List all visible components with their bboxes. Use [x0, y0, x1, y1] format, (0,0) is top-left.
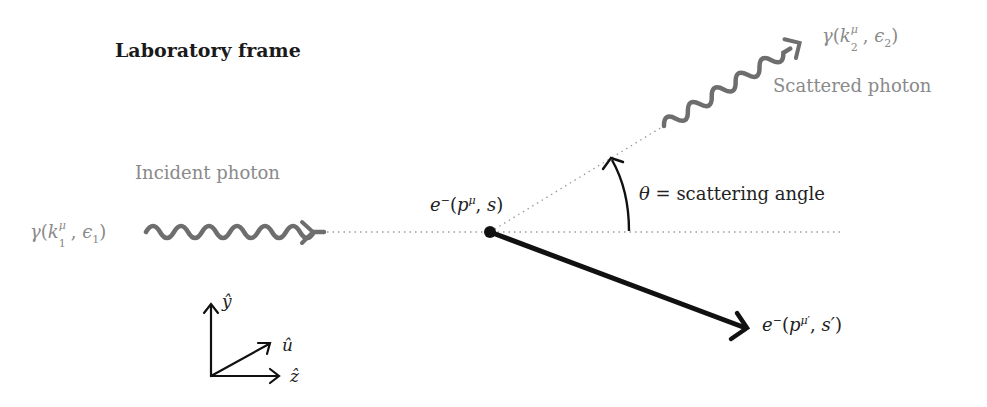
polarization-symbol: ϵ	[874, 25, 884, 46]
gamma-symbol: γ	[822, 25, 833, 46]
spin-symbol: s	[487, 194, 496, 215]
spin-symbol: s′	[822, 314, 835, 335]
scattered-photon-label: γ(kμ2, ϵ2)	[822, 27, 898, 45]
interaction-vertex	[484, 226, 496, 238]
z-axis-label: ẑ	[290, 368, 299, 385]
scattered-direction-dotted-line	[490, 127, 662, 232]
momentum-symbol: k	[840, 25, 851, 46]
mu-superscript: μ	[800, 314, 807, 327]
electron-symbol: e	[762, 314, 773, 335]
coordinate-axes	[204, 304, 279, 383]
momentum-symbol: p	[457, 194, 469, 215]
theta-symbol: θ	[639, 183, 650, 204]
momentum-symbol: k	[48, 221, 59, 242]
angle-description: = scattering angle	[656, 183, 825, 204]
initial-electron-label: e−(pμ, s)	[430, 196, 503, 214]
u-axis-arrow	[211, 344, 269, 376]
electron-symbol: e	[430, 194, 441, 215]
compton-scattering-diagram: Laboratory frame Incident photon γ(kμ1, …	[0, 0, 987, 407]
u-axis-label: û	[282, 337, 293, 354]
diagram-title: Laboratory frame	[115, 41, 301, 60]
scattered-photon-arrowhead	[784, 34, 805, 59]
y-axis-label: ŷ	[222, 293, 232, 310]
incident-photon-label: γ(kμ1, ϵ1)	[30, 223, 106, 241]
charge-superscript: −	[773, 314, 782, 327]
polarization-symbol: ϵ	[82, 221, 92, 242]
final-electron-label: e−(pμ′, s′)	[762, 316, 842, 334]
charge-superscript: −	[441, 194, 450, 207]
scattered-photon-caption: Scattered photon	[773, 77, 931, 95]
recoil-electron-arrow	[490, 232, 747, 339]
incident-photon-caption: Incident photon	[135, 164, 280, 182]
scattering-angle-arc	[603, 158, 629, 231]
momentum-symbol: p	[789, 314, 801, 335]
gamma-symbol: γ	[30, 221, 41, 242]
incident-photon-wave	[146, 222, 324, 243]
incident-photon-arrowhead	[302, 222, 313, 243]
scattering-angle-label: θ = scattering angle	[639, 185, 825, 203]
mu-superscript: μ	[468, 194, 475, 207]
